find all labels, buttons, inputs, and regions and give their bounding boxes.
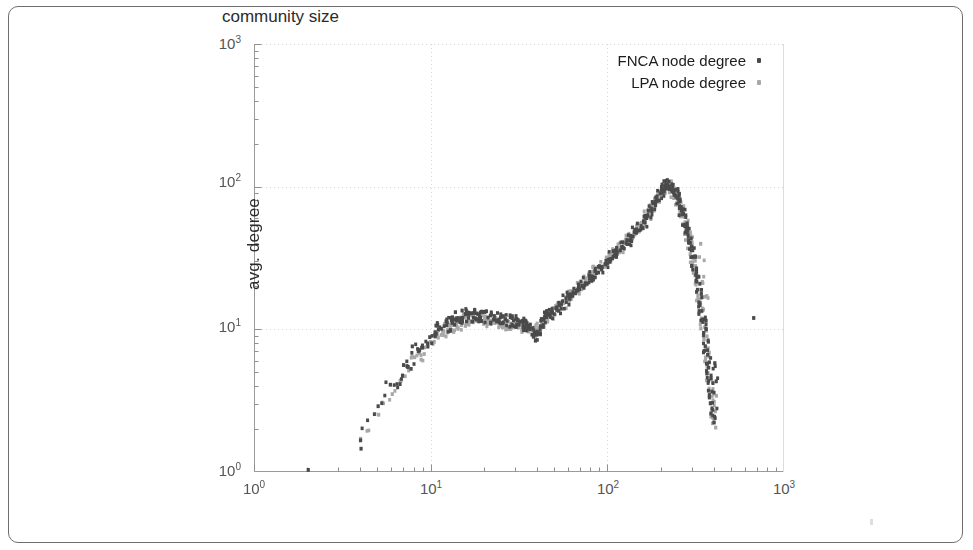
scatter-plot-canvas xyxy=(254,44,784,472)
x-tick-100: 102 xyxy=(582,479,634,497)
legend-item-lpa: LPA node degree xyxy=(504,71,772,93)
y-tick-1000: 103 xyxy=(189,34,241,52)
x-tick-1: 100 xyxy=(228,479,280,497)
legend-marker-lpa-icon xyxy=(746,80,772,85)
x-tick-1000: 103 xyxy=(758,479,810,497)
chart-legend: FNCA node degree LPA node degree xyxy=(504,49,772,93)
legend-label-lpa: LPA node degree xyxy=(631,74,746,91)
x-tick-10: 101 xyxy=(405,479,457,497)
y-tick-1: 100 xyxy=(189,461,241,479)
figure-frame: FNCA node degree LPA node degree avg. de… xyxy=(8,6,963,543)
x-axis-title-wrap: community size xyxy=(9,7,973,27)
legend-marker-fnca-icon xyxy=(746,58,772,63)
stray-speck xyxy=(870,519,873,525)
y-tick-100: 102 xyxy=(189,172,241,190)
x-axis-title: community size xyxy=(222,7,339,26)
legend-label-fnca: FNCA node degree xyxy=(618,52,746,69)
y-tick-10: 101 xyxy=(189,317,241,335)
plot-area: FNCA node degree LPA node degree avg. de… xyxy=(254,44,784,472)
y-axis-title: avg. degree xyxy=(244,134,264,354)
legend-item-fnca: FNCA node degree xyxy=(504,49,772,71)
